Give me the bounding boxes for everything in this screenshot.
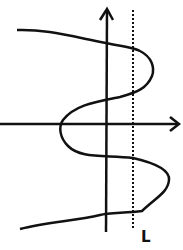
curve bbox=[17, 30, 169, 229]
line-label-l: L bbox=[141, 228, 151, 246]
x-axis bbox=[0, 117, 179, 131]
graph-figure bbox=[0, 0, 183, 250]
